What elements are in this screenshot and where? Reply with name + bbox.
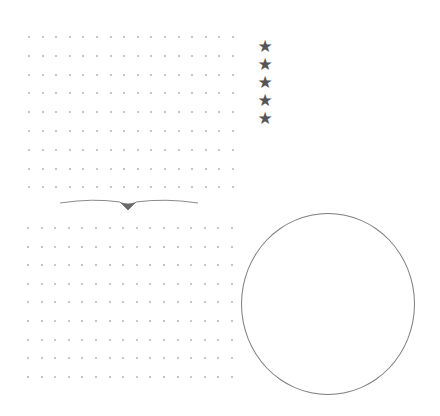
grid-dot bbox=[82, 149, 84, 151]
grid-dot bbox=[27, 320, 29, 322]
grid-dot bbox=[55, 55, 57, 57]
star-icon: ★ bbox=[256, 109, 274, 127]
grid-dot bbox=[150, 168, 152, 170]
grid-dot bbox=[81, 320, 83, 322]
grid-dot bbox=[205, 36, 207, 38]
grid-dot bbox=[27, 339, 29, 341]
grid-dot bbox=[109, 320, 111, 322]
grid-dot bbox=[205, 111, 207, 113]
grid-dot bbox=[218, 36, 220, 38]
grid-dot bbox=[68, 320, 70, 322]
grid-dot bbox=[95, 320, 97, 322]
grid-dot bbox=[96, 111, 98, 113]
grid-dot bbox=[41, 376, 43, 378]
grid-dot bbox=[69, 55, 71, 57]
grid-dot bbox=[109, 301, 111, 303]
grid-dot bbox=[122, 246, 124, 248]
grid-dot bbox=[122, 264, 124, 266]
grid-dot bbox=[205, 186, 207, 188]
grid-dot bbox=[136, 246, 138, 248]
grid-dot bbox=[69, 36, 71, 38]
grid-dot bbox=[123, 92, 125, 94]
grid-dot bbox=[178, 74, 180, 76]
grid-dot bbox=[123, 149, 125, 151]
grid-dot bbox=[164, 186, 166, 188]
grid-dot bbox=[137, 130, 139, 132]
grid-dot bbox=[82, 74, 84, 76]
grid-dot bbox=[164, 55, 166, 57]
grid-dot bbox=[82, 92, 84, 94]
grid-dot bbox=[28, 74, 30, 76]
grid-dot bbox=[95, 357, 97, 359]
grid-dot bbox=[96, 92, 98, 94]
star-icon: ★ bbox=[256, 91, 274, 109]
grid-dot bbox=[218, 92, 220, 94]
grid-dot bbox=[217, 301, 219, 303]
grid-dot bbox=[95, 283, 97, 285]
grid-dot bbox=[136, 283, 138, 285]
grid-dot bbox=[123, 111, 125, 113]
grid-dot bbox=[109, 246, 111, 248]
grid-dot bbox=[204, 283, 206, 285]
grid-dot bbox=[177, 264, 179, 266]
grid-dot bbox=[217, 376, 219, 378]
grid-dot bbox=[204, 227, 206, 229]
grid-dot bbox=[178, 55, 180, 57]
grid-dot bbox=[177, 283, 179, 285]
grid-dot bbox=[136, 357, 138, 359]
grid-dot bbox=[68, 301, 70, 303]
grid-dot bbox=[95, 376, 97, 378]
grid-dot bbox=[136, 301, 138, 303]
grid-dot bbox=[109, 227, 111, 229]
grid-dot bbox=[110, 186, 112, 188]
grid-dot bbox=[28, 149, 30, 151]
grid-dot bbox=[177, 227, 179, 229]
grid-dot bbox=[123, 130, 125, 132]
grid-dot bbox=[42, 74, 44, 76]
grid-dot bbox=[27, 357, 29, 359]
grid-dot bbox=[54, 283, 56, 285]
grid-dot bbox=[136, 376, 138, 378]
grid-dot bbox=[81, 227, 83, 229]
grid-dot bbox=[205, 74, 207, 76]
grid-dot bbox=[149, 320, 151, 322]
grid-dot bbox=[54, 264, 56, 266]
grid-dot bbox=[232, 92, 234, 94]
grid-dot bbox=[55, 92, 57, 94]
grid-dot bbox=[28, 186, 30, 188]
grid-dot bbox=[55, 130, 57, 132]
grid-dot bbox=[95, 339, 97, 341]
grid-dot bbox=[231, 283, 233, 285]
grid-dot bbox=[27, 227, 29, 229]
grid-dot bbox=[149, 246, 151, 248]
grid-dot bbox=[217, 283, 219, 285]
grid-dot bbox=[190, 246, 192, 248]
grid-dot bbox=[82, 168, 84, 170]
grid-dot bbox=[164, 36, 166, 38]
grid-dot bbox=[95, 264, 97, 266]
grid-dot bbox=[96, 149, 98, 151]
grid-dot bbox=[231, 301, 233, 303]
grid-dot bbox=[69, 130, 71, 132]
grid-dot bbox=[190, 376, 192, 378]
grid-dot bbox=[205, 149, 207, 151]
grid-dot bbox=[42, 92, 44, 94]
grid-dot bbox=[178, 111, 180, 113]
star-icon: ★ bbox=[256, 37, 274, 55]
grid-dot bbox=[27, 264, 29, 266]
grid-dot bbox=[191, 55, 193, 57]
grid-dot bbox=[178, 130, 180, 132]
grid-dot bbox=[109, 283, 111, 285]
grid-dot bbox=[232, 74, 234, 76]
grid-dot bbox=[163, 283, 165, 285]
grid-dot bbox=[231, 246, 233, 248]
grid-dot bbox=[150, 74, 152, 76]
grid-dot bbox=[164, 130, 166, 132]
grid-dot bbox=[137, 111, 139, 113]
grid-dot bbox=[136, 339, 138, 341]
grid-dot bbox=[163, 339, 165, 341]
grid-dot bbox=[82, 186, 84, 188]
grid-dot bbox=[68, 357, 70, 359]
grid-dot bbox=[109, 339, 111, 341]
grid-dot bbox=[177, 320, 179, 322]
